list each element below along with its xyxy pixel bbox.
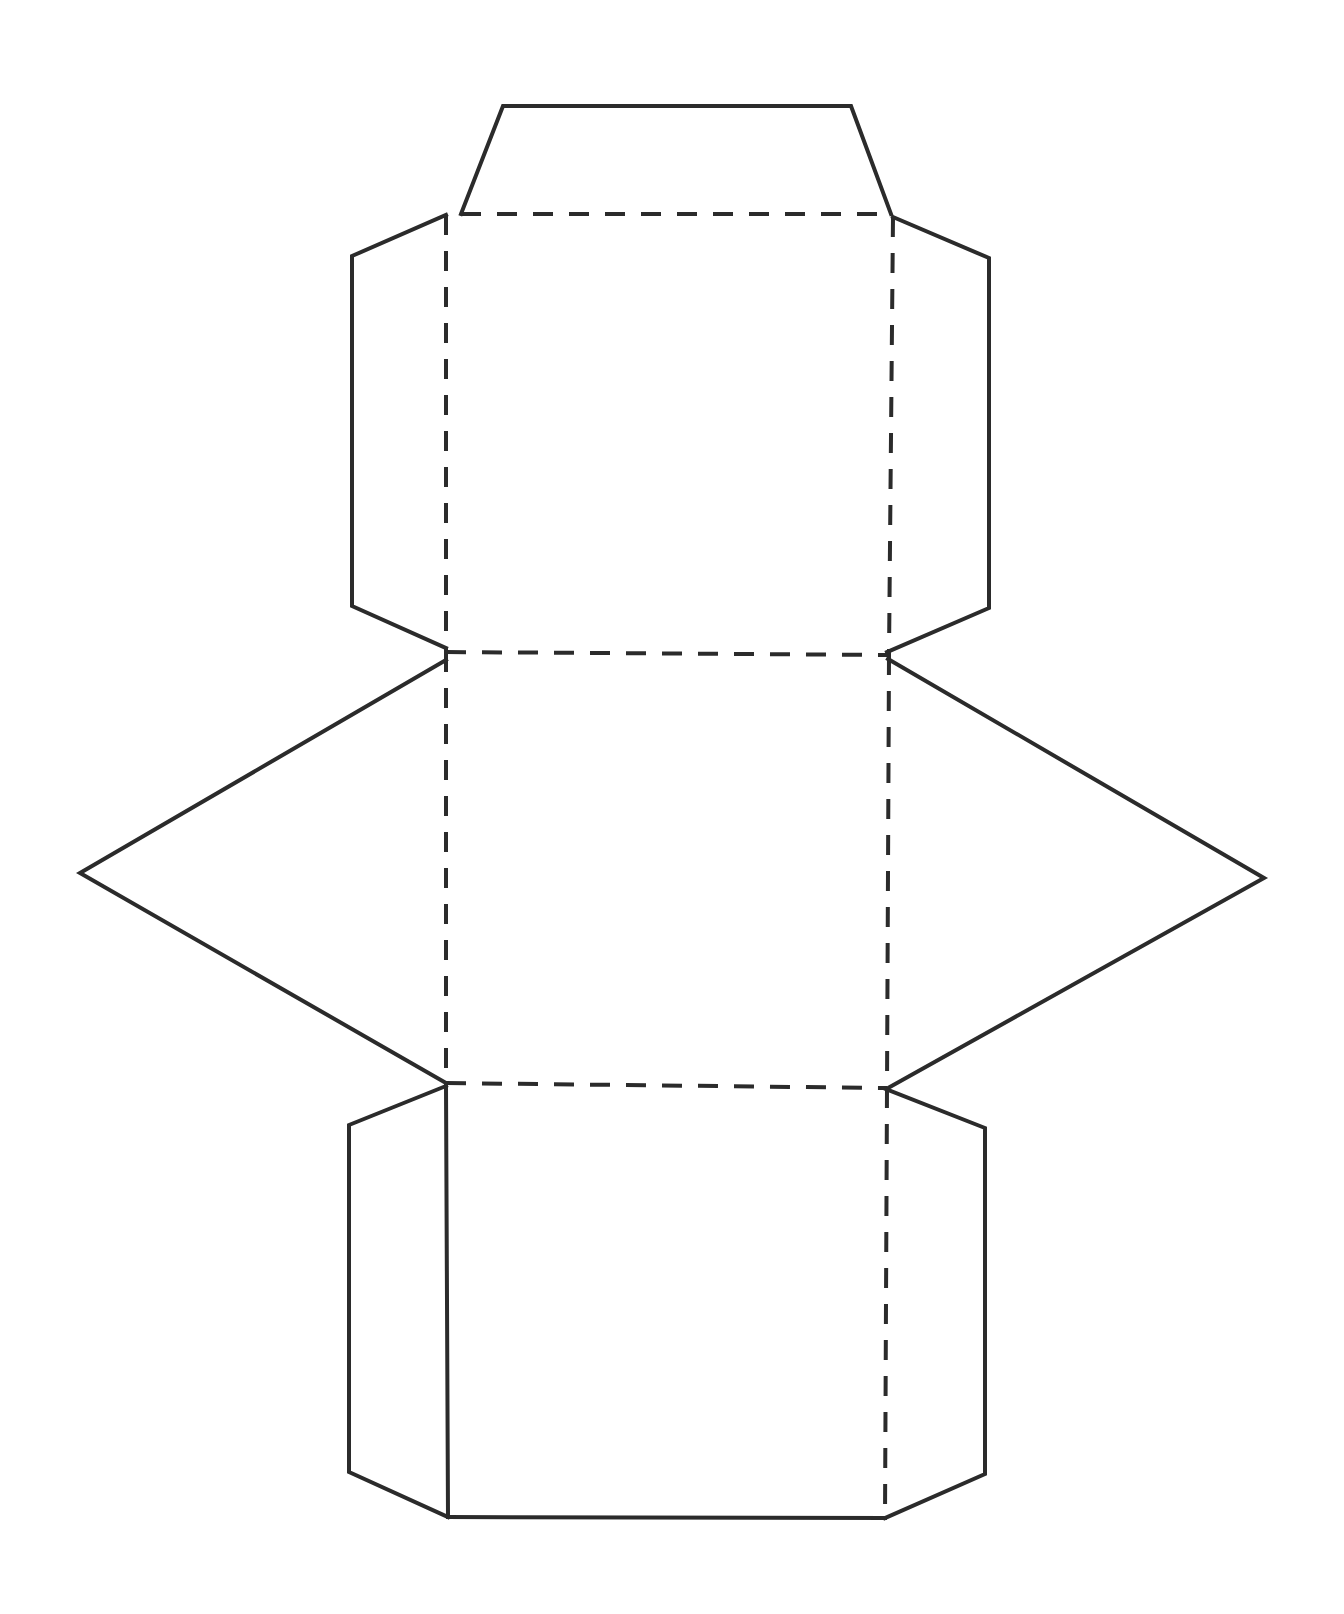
bottom-face-bottom-edge-cut-line: [448, 1517, 885, 1518]
bottom-face-left-edge-cut-line: [446, 1086, 448, 1517]
upper-left-flap-cut-line: [352, 215, 446, 648]
right-triangle-flap-cut-line: [888, 659, 1264, 1088]
fold-upper-right: [889, 217, 893, 655]
fold-middle: [446, 652, 889, 655]
lower-right-flap-cut-line: [885, 1089, 985, 1518]
left-triangle-flap-cut-line: [80, 660, 446, 1083]
paper-net-diagram: [0, 0, 1344, 1614]
cut-lines: [80, 106, 1264, 1518]
fold-lower-right: [885, 1088, 887, 1518]
fold-lower: [446, 1083, 887, 1088]
fold-lines: [446, 214, 893, 1518]
net-drawing: [0, 0, 1344, 1614]
top-flap-cut-line: [461, 106, 891, 214]
fold-mid-right: [887, 655, 889, 1088]
lower-left-flap-cut-line: [349, 1086, 448, 1517]
upper-right-flap-cut-line: [887, 217, 989, 652]
